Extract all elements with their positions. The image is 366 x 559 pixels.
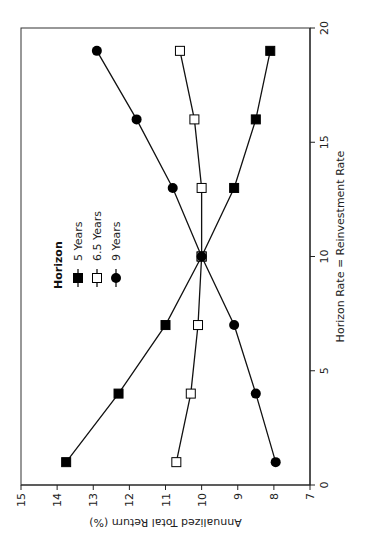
data-point-marker [92, 46, 102, 56]
y-tick-label: 9 [232, 493, 245, 500]
legend-marker-icon [93, 274, 102, 283]
legend-label: 6.5 Years [91, 211, 104, 261]
chart: 05101520 789101112131415 Horizon5 Years6… [0, 0, 366, 559]
data-point-marker [114, 389, 123, 398]
y-tick-label: 11 [160, 493, 173, 507]
data-point-marker [132, 114, 142, 124]
data-point-marker [62, 458, 71, 467]
legend: Horizon5 Years6.5 Years9 Years [52, 211, 123, 289]
y-axis-title: Annualized Total Return (%) [89, 516, 242, 529]
data-point-marker [197, 252, 207, 262]
data-point-marker [161, 321, 170, 330]
legend-marker-icon [74, 274, 83, 283]
data-point-marker [251, 115, 260, 124]
x-tick-label: 15 [318, 135, 331, 149]
series-line [97, 51, 276, 462]
x-axis-title: Horizon Rate = Reinvestment Rate [334, 150, 347, 342]
x-tick-label: 20 [318, 21, 331, 35]
x-tick-label: 0 [318, 482, 331, 489]
data-point-marker [194, 321, 203, 330]
data-point-marker [186, 389, 195, 398]
data-point-marker [175, 46, 184, 55]
data-point-marker [271, 457, 281, 467]
legend-label: 9 Years [110, 221, 123, 261]
y-tick-label: 15 [15, 493, 28, 507]
y-tick-label: 13 [87, 493, 100, 507]
data-point-marker [168, 183, 178, 193]
legend-marker-icon [111, 273, 121, 283]
data-point-marker [251, 389, 261, 399]
y-tick-label: 10 [196, 493, 209, 507]
data-point-marker [230, 183, 239, 192]
x-tick-label: 5 [318, 367, 331, 374]
data-point-marker [197, 183, 206, 192]
y-tick-label: 7 [304, 493, 317, 500]
data-point-marker [190, 115, 199, 124]
y-tick-label: 8 [268, 493, 281, 500]
x-axis: 05101520 [310, 21, 331, 489]
y-tick-label: 12 [123, 493, 136, 507]
data-point-marker [229, 320, 239, 330]
legend-label: 5 Years [72, 221, 85, 261]
data-point-marker [266, 46, 275, 55]
y-axis: 789101112131415 [15, 485, 317, 507]
data-point-marker [172, 458, 181, 467]
y-tick-label: 14 [51, 493, 64, 507]
legend-title: Horizon [52, 241, 65, 289]
x-tick-label: 10 [318, 250, 331, 264]
